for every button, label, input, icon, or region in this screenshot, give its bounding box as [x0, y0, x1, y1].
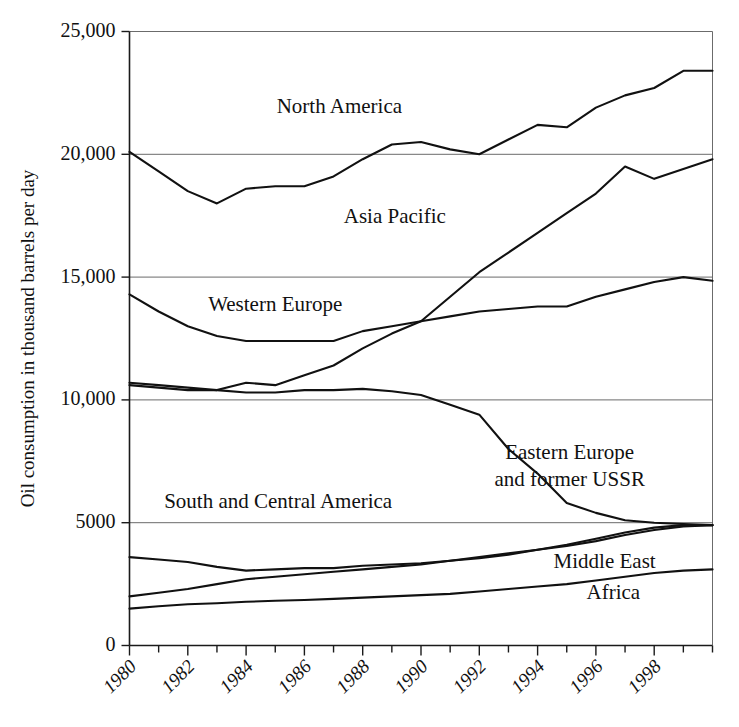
y-axis-ticks: 0500010,00015,00020,00025,000 — [61, 19, 130, 655]
oil-consumption-line-chart: 0500010,00015,00020,00025,000 1980198219… — [0, 0, 739, 727]
series-label-western-europe: Western Europe — [208, 292, 342, 316]
series-label-africa: Africa — [587, 580, 641, 604]
chart-page: 0500010,00015,00020,00025,000 1980198219… — [0, 0, 739, 727]
y-tick-label-5000: 5000 — [76, 510, 116, 532]
series-label-asia-pacific: Asia Pacific — [344, 204, 446, 228]
series-line-north-america — [130, 71, 713, 204]
series-label-north-america: North America — [277, 94, 403, 118]
y-tick-label-10000: 10,000 — [61, 387, 116, 409]
y-tick-label-15000: 15,000 — [61, 265, 116, 287]
y-tick-label-0: 0 — [106, 633, 116, 655]
x-axis-ticks: 1980198219841986198819901992199419961998 — [99, 646, 713, 698]
series-label-south-and-central-america: South and Central America — [164, 489, 393, 513]
series-label-middle-east: Middle East — [554, 549, 656, 573]
series-line-asia-pacific — [130, 159, 713, 390]
x-tick-label-1986: 1986 — [274, 655, 316, 697]
x-tick-label-1984: 1984 — [215, 655, 257, 697]
x-tick-label-1980: 1980 — [99, 655, 141, 697]
x-tick-label-1996: 1996 — [565, 655, 607, 697]
y-tick-label-25000: 25,000 — [61, 19, 116, 41]
series-lines — [130, 71, 713, 609]
series-label-eastern-europe-and-former-ussr: Eastern Europeand former USSR — [494, 440, 645, 491]
x-tick-label-1998: 1998 — [623, 655, 665, 697]
x-tick-label-1990: 1990 — [390, 655, 432, 697]
y-tick-label-20000: 20,000 — [61, 142, 116, 164]
series-labels: North AmericaAsia PacificWestern EuropeE… — [164, 94, 656, 604]
y-axis-title: Oil consumption in thousand barrels per … — [17, 169, 38, 507]
x-tick-label-1994: 1994 — [507, 655, 549, 697]
x-tick-label-1988: 1988 — [332, 655, 374, 697]
x-tick-label-1982: 1982 — [157, 655, 199, 697]
x-tick-label-1992: 1992 — [448, 655, 490, 697]
y-axis-title-text: Oil consumption in thousand barrels per … — [17, 169, 38, 507]
